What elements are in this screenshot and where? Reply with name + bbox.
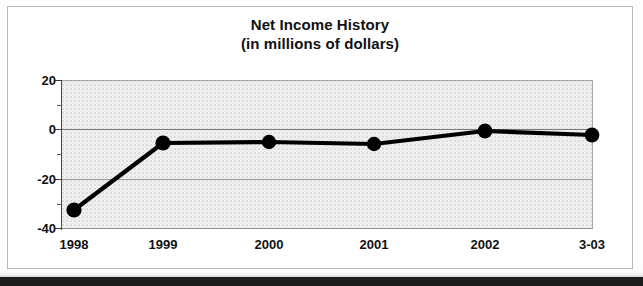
data-series-layer (8, 7, 632, 268)
page-bottom-edge (0, 270, 643, 277)
x-axis-label-1999: 1999 (128, 238, 198, 252)
x-axis-label-2002: 2002 (450, 238, 520, 252)
data-point-2002 (478, 124, 493, 139)
x-axis-label-3-03: 3-03 (557, 238, 627, 252)
x-axis-label-2001: 2001 (339, 238, 409, 252)
x-axis-label-2000: 2000 (234, 238, 304, 252)
data-point-1998 (66, 202, 81, 217)
scanned-page: Net Income History (in millions of dolla… (0, 0, 643, 286)
x-axis-label-1998: 1998 (39, 238, 109, 252)
data-point-2000 (262, 135, 276, 149)
scan-bottom-band (0, 277, 643, 286)
data-point-1999 (155, 135, 170, 150)
net-income-line (74, 131, 592, 210)
net-income-history-chart: Net Income History (in millions of dolla… (8, 7, 632, 268)
data-point-3-03 (585, 128, 600, 143)
data-point-2001 (367, 137, 381, 151)
